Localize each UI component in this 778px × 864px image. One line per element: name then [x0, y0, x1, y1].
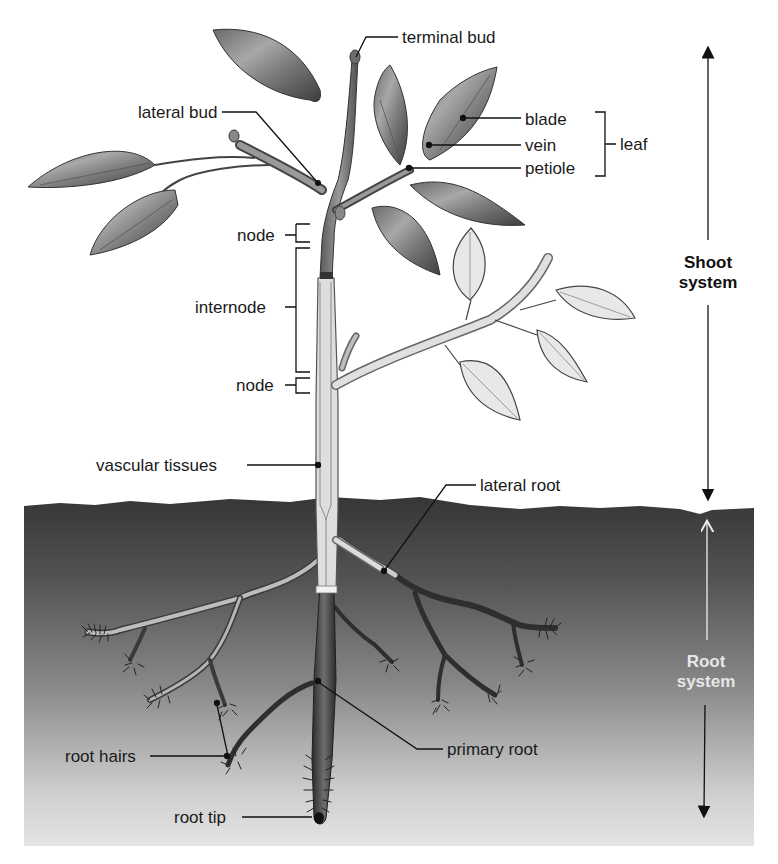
- label-root-tip: root tip: [174, 809, 226, 826]
- soil: [24, 497, 754, 846]
- label-vascular-tissues: vascular tissues: [96, 457, 217, 474]
- label-vein: vein: [525, 137, 556, 154]
- shoot-system-line2: system: [668, 273, 748, 293]
- label-node-lower: node: [236, 377, 274, 394]
- root-system-line1: Root: [666, 652, 746, 672]
- mature-leaves: [28, 29, 525, 275]
- label-internode: internode: [195, 299, 266, 316]
- root-system-line2: system: [666, 672, 746, 692]
- shoot-system-line1: Shoot: [668, 253, 748, 273]
- label-root-hairs: root hairs: [65, 748, 136, 765]
- label-blade: blade: [525, 111, 567, 128]
- label-petiole: petiole: [525, 160, 575, 177]
- label-lateral-root: lateral root: [480, 477, 560, 494]
- label-node-upper: node: [237, 227, 275, 244]
- plant-anatomy-diagram: terminal bud lateral bud blade vein peti…: [0, 0, 778, 864]
- label-leaf: leaf: [620, 136, 647, 153]
- shoot-system-label: Shoot system: [668, 253, 748, 292]
- label-terminal-bud: terminal bud: [402, 29, 496, 46]
- plant-illustration: [0, 0, 778, 864]
- label-lateral-bud: lateral bud: [138, 104, 217, 121]
- label-primary-root: primary root: [447, 741, 538, 758]
- root-system-label: Root system: [666, 652, 746, 691]
